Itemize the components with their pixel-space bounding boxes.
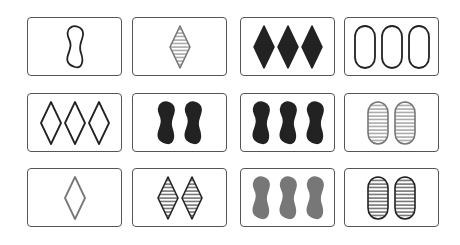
oval-icon [381, 25, 403, 69]
card-symbols [250, 101, 326, 145]
card-r3c1[interactable]: 1 gray outline diamond [27, 168, 122, 227]
card-symbols [40, 101, 110, 145]
card-r1c3[interactable]: 3 black solid diamonds [240, 17, 335, 76]
squiggle-icon [250, 101, 272, 145]
card-symbols [155, 101, 204, 145]
oval-icon [408, 25, 430, 69]
card-symbols [367, 176, 416, 220]
card-symbols [367, 101, 416, 145]
oval-icon [367, 101, 389, 145]
card-symbols [253, 25, 323, 69]
card-symbols [169, 25, 191, 69]
oval-icon [394, 176, 416, 220]
diamond-icon [88, 101, 110, 145]
card-symbols [354, 25, 430, 69]
card-symbols [64, 25, 86, 69]
card-r2c2[interactable]: 2 black solid squiggles [132, 93, 227, 152]
squiggle-icon [277, 176, 299, 220]
squiggle-icon [277, 101, 299, 145]
diamond-icon [301, 25, 323, 69]
card-r3c3[interactable]: 3 gray solid squiggles [240, 168, 335, 227]
card-r1c1[interactable]: 1 black outline squiggle [27, 17, 122, 76]
diamond-icon [40, 101, 62, 145]
card-r2c4[interactable]: 2 gray striped ovals [344, 93, 439, 152]
set-game-board: 1 black outline squiggle 1 gray striped … [0, 0, 460, 245]
card-symbols [157, 176, 203, 220]
card-r2c1[interactable]: 3 black outline diamonds [27, 93, 122, 152]
squiggle-icon [250, 176, 272, 220]
card-r1c2[interactable]: 1 gray striped diamond [132, 17, 227, 76]
card-symbols [64, 176, 86, 220]
squiggle-icon [155, 101, 177, 145]
oval-icon [394, 101, 416, 145]
squiggle-icon [304, 101, 326, 145]
squiggle-icon [304, 176, 326, 220]
diamond-icon [157, 176, 179, 220]
card-r2c3[interactable]: 3 black solid squiggles [240, 93, 335, 152]
oval-icon [354, 25, 376, 69]
diamond-icon [277, 25, 299, 69]
diamond-icon [253, 25, 275, 69]
card-symbols [250, 176, 326, 220]
card-r1c4[interactable]: 3 black outline ovals [344, 17, 439, 76]
diamond-icon [64, 176, 86, 220]
diamond-icon [169, 25, 191, 69]
oval-icon [367, 176, 389, 220]
squiggle-icon [64, 25, 86, 69]
card-r3c4[interactable]: 2 black striped ovals [344, 168, 439, 227]
diamond-icon [181, 176, 203, 220]
diamond-icon [64, 101, 86, 145]
card-r3c2[interactable]: 2 black striped diamonds [132, 168, 227, 227]
squiggle-icon [182, 101, 204, 145]
